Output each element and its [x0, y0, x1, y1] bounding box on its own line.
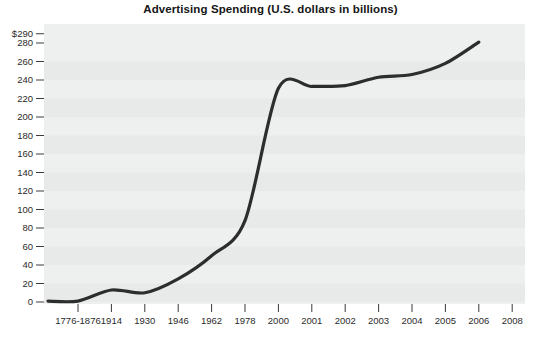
y-axis-tick-label: 240 — [17, 74, 33, 85]
background-band — [44, 284, 525, 303]
x-axis-tick-label: 2002 — [335, 315, 356, 326]
background-band — [44, 99, 525, 118]
y-axis-tick-label: 40 — [22, 259, 33, 270]
plot-background-group — [44, 24, 525, 304]
y-axis-tick-label: 200 — [17, 111, 33, 122]
background-band — [44, 247, 525, 266]
x-axis-tick-label: 1978 — [234, 315, 255, 326]
x-axis-tick-label: 2004 — [401, 315, 422, 326]
y-axis-tick-label: 180 — [17, 130, 33, 141]
x-axis-tick-label: 2000 — [268, 315, 289, 326]
background-band — [44, 173, 525, 192]
background-band — [44, 210, 525, 229]
y-axis-tick-label: 280 — [17, 37, 33, 48]
x-axis-tick-label: 1962 — [201, 315, 222, 326]
y-axis-tick-label: 20 — [22, 278, 33, 289]
y-axis-tick-label: 100 — [17, 204, 33, 215]
y-axis-tick-label: 120 — [17, 185, 33, 196]
advertising-spending-chart: Advertising Spending (U.S. dollars in bi… — [0, 0, 541, 338]
chart-plot-svg: $290280260240220200180160140120100806040… — [0, 0, 541, 338]
y-axis-tick-label: 0 — [28, 296, 33, 307]
y-axis-tick-label: 160 — [17, 148, 33, 159]
x-axis-tick-label: 2006 — [468, 315, 489, 326]
y-axis-tick-label: 220 — [17, 93, 33, 104]
x-axis-tick-label: 2008 — [502, 315, 523, 326]
y-axis-tick-label: 60 — [22, 241, 33, 252]
x-axis-tick-label: 1914 — [101, 315, 122, 326]
y-axis-ticks: $290280260240220200180160140120100806040… — [12, 28, 44, 307]
background-band — [44, 62, 525, 81]
x-axis-tick-label: 2005 — [435, 315, 456, 326]
x-axis-tick-label: 2003 — [368, 315, 389, 326]
x-axis-ticks: 1776-18761914193019461962197820002001200… — [55, 304, 522, 326]
x-axis-tick-label: 1946 — [168, 315, 189, 326]
x-axis-tick-label: 1930 — [134, 315, 155, 326]
background-band — [44, 136, 525, 155]
y-axis-tick-label: 80 — [22, 222, 33, 233]
y-axis-tick-label: 140 — [17, 167, 33, 178]
x-axis-tick-label: 1776-1876 — [55, 315, 100, 326]
x-axis-tick-label: 2001 — [301, 315, 322, 326]
y-axis-tick-label: 260 — [17, 56, 33, 67]
